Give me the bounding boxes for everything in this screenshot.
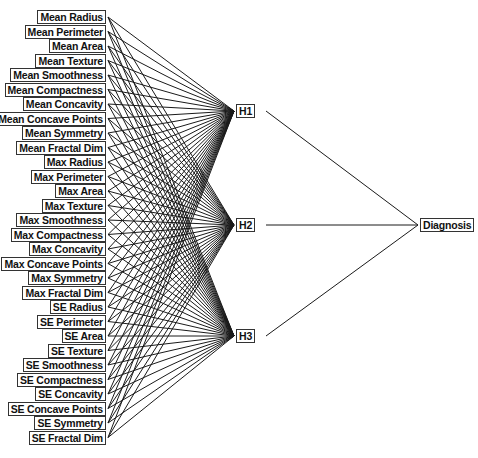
input-node: Mean Smoothness bbox=[10, 68, 106, 82]
input-node: Max Smoothness bbox=[16, 213, 106, 227]
input-node: SE Compactness bbox=[17, 373, 106, 387]
hidden-node-h3: H3 bbox=[236, 329, 255, 343]
input-node: SE Radius bbox=[50, 300, 106, 314]
input-node: Max Perimeter bbox=[31, 170, 106, 184]
input-node: Mean Texture bbox=[35, 54, 106, 68]
output-node-diagnosis: Diagnosis bbox=[420, 218, 474, 232]
edge bbox=[108, 32, 234, 112]
edge bbox=[108, 336, 234, 409]
input-node: Max Concave Points bbox=[1, 257, 106, 271]
hidden-node-h1: H1 bbox=[236, 104, 255, 118]
input-node: Max Area bbox=[55, 184, 106, 198]
input-node: Max Compactness bbox=[11, 228, 106, 242]
input-node: SE Smoothness bbox=[23, 358, 106, 372]
hidden-node-h2: H2 bbox=[236, 218, 255, 232]
input-node: SE Concavity bbox=[35, 387, 106, 401]
input-node: Mean Perimeter bbox=[25, 25, 106, 39]
input-node: Mean Concave Points bbox=[0, 112, 106, 126]
input-node: Mean Concavity bbox=[23, 97, 106, 111]
edge bbox=[108, 336, 234, 380]
neural-network-diagram: Mean RadiusMean PerimeterMean AreaMean T… bbox=[0, 0, 478, 458]
input-node: Mean Radius bbox=[37, 10, 106, 24]
edge bbox=[266, 225, 418, 336]
edge bbox=[108, 133, 234, 336]
edge bbox=[108, 336, 234, 423]
input-node: SE Symmetry bbox=[34, 416, 106, 430]
input-node: Mean Compactness bbox=[5, 83, 106, 97]
input-node: Max Fractal Dim bbox=[22, 286, 106, 300]
input-node: Max Texture bbox=[42, 199, 106, 213]
edge bbox=[266, 111, 418, 225]
input-node: Max Concavity bbox=[29, 242, 106, 256]
input-node: SE Area bbox=[62, 329, 106, 343]
input-node: Max Radius bbox=[44, 155, 106, 169]
input-node: SE Fractal Dim bbox=[29, 431, 106, 445]
input-node: Max Symmetry bbox=[28, 271, 106, 285]
input-node: SE Texture bbox=[48, 344, 106, 358]
input-node: SE Concave Points bbox=[8, 402, 106, 416]
input-node: Mean Area bbox=[49, 39, 106, 53]
input-node: Mean Fractal Dim bbox=[16, 141, 106, 155]
input-node: Mean Symmetry bbox=[22, 126, 106, 140]
edge bbox=[108, 111, 234, 409]
input-node: SE Perimeter bbox=[37, 315, 106, 329]
